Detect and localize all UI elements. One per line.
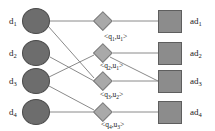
edge-d1-q3u2: [48, 26, 94, 78]
ad-label-ad4: ad4: [190, 108, 202, 117]
document-label-d4: d4: [9, 108, 17, 117]
edge-d3-q4u3: [49, 86, 94, 110]
edge-d2-q3u2: [50, 57, 94, 81]
ad-node-ad1[interactable]: [158, 10, 182, 33]
ad-node-ad4[interactable]: [158, 101, 182, 124]
edge-d3-q2u1: [49, 55, 94, 77]
document-node-d4[interactable]: [22, 99, 50, 125]
document-node-d1[interactable]: [22, 8, 50, 34]
document-node-d2[interactable]: [22, 40, 50, 66]
document-label-d1: d1: [9, 17, 17, 26]
ad-label-ad1: ad1: [190, 17, 202, 26]
label-q2u1: <q2,u1>: [100, 62, 123, 70]
document-label-d2: d2: [9, 49, 17, 58]
ad-label-ad3: ad3: [190, 77, 202, 86]
label-q1u1: <q1,u1>: [104, 33, 127, 41]
ad-node-ad2[interactable]: [158, 42, 182, 65]
label-q4u3: <q4,u3>: [101, 121, 124, 129]
tripartite-graph-diagram: d1d2d3d4ad1ad2ad3ad4<q1,u1><q2,u1><q3,u2…: [0, 0, 215, 131]
ad-node-ad3[interactable]: [158, 70, 182, 93]
ad-label-ad2: ad2: [190, 49, 202, 58]
document-label-d3: d3: [9, 77, 17, 86]
document-node-d3[interactable]: [22, 68, 50, 94]
label-q3u2: <q3,u2>: [100, 91, 123, 99]
